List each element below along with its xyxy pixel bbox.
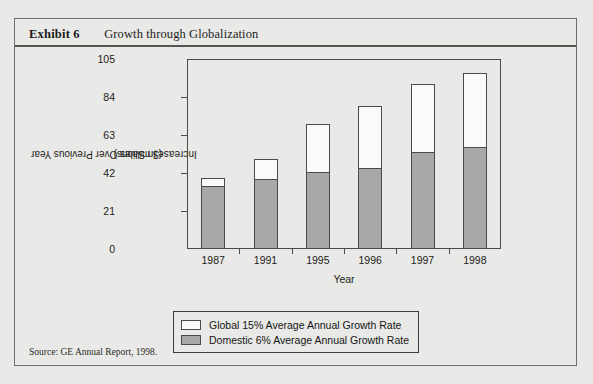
bar-segment-domestic-1991 xyxy=(255,179,277,248)
legend-label: Domestic 6% Average Annual Growth Rate xyxy=(209,334,409,346)
y-axis-tick-label: 105 xyxy=(75,53,115,65)
source-note: Source: GE Annual Report, 1998. xyxy=(29,347,157,357)
x-axis-tick-label: 1995 xyxy=(288,254,348,266)
chart-legend: Global 15% Average Annual Growth RateDom… xyxy=(173,311,419,353)
bar-segment-domestic-1995 xyxy=(307,172,329,248)
bar-segment-domestic-1998 xyxy=(464,147,486,248)
bar-chart: Increase in Sales Over Previous Year ($ … xyxy=(119,51,519,307)
bar-segment-domestic-1997 xyxy=(412,152,434,248)
exhibit-title: Growth through Globalization xyxy=(104,27,258,41)
x-axis-tick-label: 1996 xyxy=(340,254,400,266)
legend-item: Domestic 6% Average Annual Growth Rate xyxy=(181,332,409,347)
exhibit-figure: Exhibit 6 Growth through Globalization I… xyxy=(0,0,593,384)
x-axis-tick-label: 1998 xyxy=(445,254,505,266)
bar-1998 xyxy=(463,73,487,249)
exhibit-label: Exhibit 6 xyxy=(29,27,80,41)
legend-item: Global 15% Average Annual Growth Rate xyxy=(181,317,409,332)
legend-swatch-domestic xyxy=(181,335,201,345)
exhibit-box: Exhibit 6 Growth through Globalization I… xyxy=(14,18,577,366)
y-axis-tick-mark xyxy=(181,211,187,212)
y-axis-title: Increase in Sales Over Previous Year ($ … xyxy=(114,59,138,249)
bar-1996 xyxy=(358,106,382,249)
legend-swatch-global xyxy=(181,320,201,330)
y-axis-tick-label: 21 xyxy=(75,205,115,217)
x-axis-title: Year xyxy=(187,273,501,285)
bar-1997 xyxy=(411,84,435,249)
y-axis-tick-mark xyxy=(181,135,187,136)
x-axis-tick-label: 1991 xyxy=(236,254,296,266)
legend-label: Global 15% Average Annual Growth Rate xyxy=(209,319,401,331)
bar-1995 xyxy=(306,124,330,249)
bar-1987 xyxy=(201,178,225,249)
y-axis-tick-label: 42 xyxy=(75,167,115,179)
bar-1991 xyxy=(254,159,278,249)
exhibit-header: Exhibit 6 Growth through Globalization xyxy=(15,19,576,47)
bar-segment-domestic-1996 xyxy=(359,168,381,248)
y-axis-tick-label: 0 xyxy=(75,243,115,255)
y-axis-tick-mark xyxy=(181,97,187,98)
x-axis-tick-label: 1997 xyxy=(393,254,453,266)
y-axis-tick-label: 63 xyxy=(75,129,115,141)
bar-segment-domestic-1987 xyxy=(202,186,224,248)
y-axis-tick-mark xyxy=(181,173,187,174)
plot-area xyxy=(187,59,501,249)
x-axis-tick-label: 1987 xyxy=(183,254,243,266)
y-axis-tick-label: 84 xyxy=(75,91,115,103)
